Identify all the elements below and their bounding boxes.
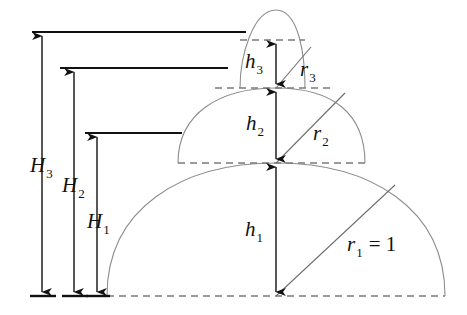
label-r3-base: r [300, 57, 309, 81]
label-r3: r3 [300, 57, 316, 85]
dome-outline-tier-2 [178, 88, 365, 163]
label-h2-base: h [246, 111, 257, 135]
label-h1: h1 [245, 217, 263, 245]
label-H1-base: H [86, 209, 104, 233]
label-r2: r2 [313, 121, 329, 149]
label-h3: h3 [245, 49, 263, 77]
label-H3: H3 [29, 153, 53, 181]
label-r1-equals: = 1 [369, 232, 397, 256]
label-h3-sub: 3 [257, 62, 264, 77]
radius-lines [276, 47, 395, 296]
label-H2-base: H [61, 173, 79, 197]
radius-line-r2 [276, 93, 345, 163]
label-H1: H1 [86, 209, 110, 237]
label-h3-base: h [245, 49, 256, 73]
label-r3-sub: 3 [309, 70, 316, 85]
dimension-labels: H3 H2 H1 h3 h2 h1 r3 [29, 49, 396, 260]
label-r2-sub: 2 [322, 134, 329, 149]
dimension-diagram: H3 H2 H1 h3 h2 h1 r3 [0, 0, 467, 315]
label-r2-base: r [313, 121, 322, 145]
cumulative-reference-lines [30, 32, 246, 296]
label-r1-sub: 1 [356, 245, 363, 260]
label-h1-sub: 1 [257, 230, 264, 245]
label-H3-base: H [29, 153, 47, 177]
cumulative-height-arrows [42, 36, 97, 292]
label-H2-sub: 2 [78, 186, 85, 201]
label-r1-base: r [347, 232, 356, 256]
label-h2-sub: 2 [258, 124, 265, 139]
label-r1: r1= 1 [347, 232, 396, 260]
label-H3-sub: 3 [46, 166, 53, 181]
label-H2: H2 [61, 173, 85, 201]
label-h1-base: h [245, 217, 256, 241]
figure-container: H3 H2 H1 h3 h2 h1 r3 [0, 0, 467, 315]
label-h2: h2 [246, 111, 264, 139]
label-H1-sub: 1 [103, 222, 110, 237]
